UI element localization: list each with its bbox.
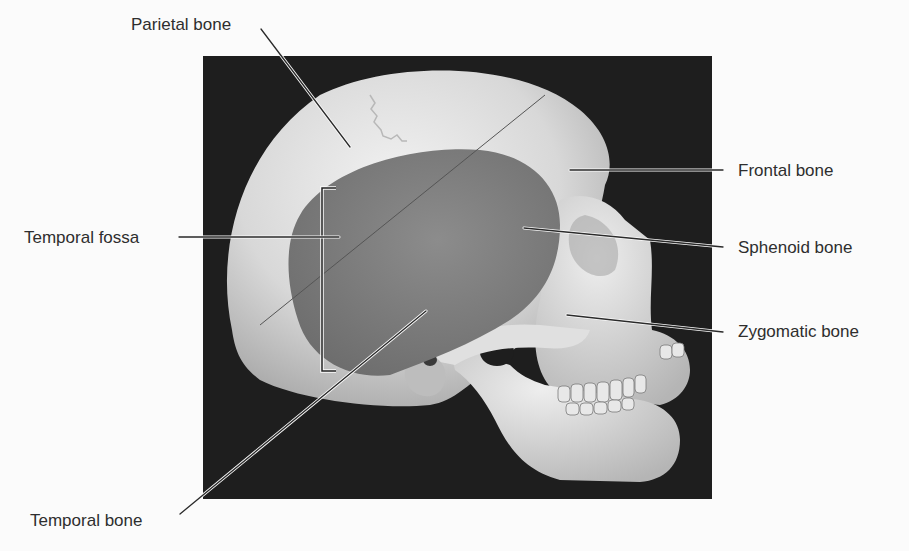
skull-illustration xyxy=(0,0,909,551)
label-parietal-bone: Parietal bone xyxy=(131,15,231,35)
label-temporal-bone: Temporal bone xyxy=(30,511,142,531)
skull-diagram: Parietal bone Temporal fossa Temporal bo… xyxy=(0,0,909,551)
label-sphenoid-bone: Sphenoid bone xyxy=(738,238,852,258)
label-frontal-bone: Frontal bone xyxy=(738,161,833,181)
label-zygomatic-bone: Zygomatic bone xyxy=(738,322,859,342)
label-temporal-fossa: Temporal fossa xyxy=(24,228,139,248)
